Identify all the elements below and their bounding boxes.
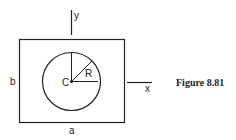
x-axis-label: x [145,83,150,94]
radius-label: R [85,68,92,79]
y-axis-label: y [74,10,79,21]
height-label: b [10,76,16,87]
figure-diagram: y x R C b a Figure 8.81 [0,0,236,140]
center-point [70,80,73,83]
center-label: C [62,77,69,88]
width-label: a [69,125,75,136]
figure-caption: Figure 8.81 [176,77,224,88]
